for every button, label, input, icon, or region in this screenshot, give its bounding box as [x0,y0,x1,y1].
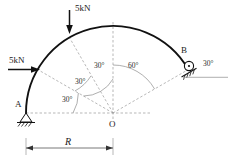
arch-curve [26,26,188,113]
vertical-load-arrow-head [66,25,73,34]
pin-support-hatching [18,123,32,127]
support-a-label: A [15,100,22,109]
dimension-arrow-left [26,146,33,151]
radial-30deg-to-b-dashed [113,70,188,114]
angle-arc-30-lower [73,93,78,113]
radial-120deg-dashed [70,38,114,113]
angle-label-incline-30: 30° [203,60,214,68]
angle-label-60: 60° [128,62,139,70]
support-b-label: B [181,46,187,55]
angle-label-30-lower: 30° [62,96,73,104]
roller-support-center-dot [188,65,190,67]
diagram-canvas [0,0,234,164]
angle-label-30-mid: 30° [75,78,86,86]
dimension-label-r: R [65,137,71,147]
vertical-load-label: 5kN [75,4,91,13]
center-o-label: O [109,120,116,129]
dimension-arrow-right [106,146,113,151]
angle-label-30-upper: 30° [94,62,105,70]
arch-diagram-figure: 5kN 5kN A B O 30° 30° 30° 60° 30° R [0,0,234,164]
horizontal-load-label: 5kN [9,56,25,65]
pin-support-triangle [20,113,32,122]
